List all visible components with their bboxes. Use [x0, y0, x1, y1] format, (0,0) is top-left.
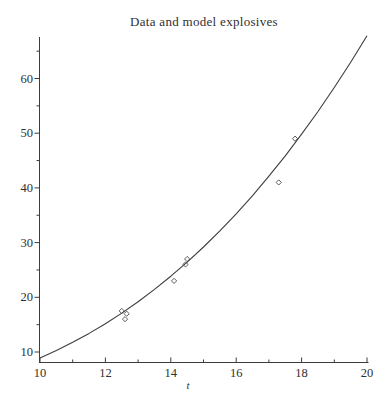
y-tick-label: 50: [21, 126, 34, 140]
x-tick-label: 18: [295, 366, 308, 380]
plot-window: Data and model explosives 10121416182010…: [0, 0, 392, 406]
y-tick-label: 40: [21, 181, 34, 195]
y-tick-label: 20: [21, 290, 34, 304]
data-point-marker: [171, 278, 176, 283]
data-point-marker: [276, 180, 281, 185]
x-tick-label: 14: [165, 366, 178, 380]
y-tick-label: 60: [21, 72, 34, 86]
x-tick-label: 10: [34, 366, 47, 380]
data-point-marker: [122, 317, 127, 322]
chart-canvas: 101214161820102030405060: [0, 0, 392, 406]
x-tick-label: 16: [230, 366, 243, 380]
data-point-marker: [124, 311, 129, 316]
y-tick-label: 10: [21, 345, 34, 359]
x-tick-label: 20: [361, 366, 374, 380]
model-curve: [40, 36, 367, 358]
x-tick-label: 12: [99, 366, 112, 380]
y-tick-label: 30: [21, 236, 34, 250]
x-axis-label: t: [0, 379, 376, 391]
